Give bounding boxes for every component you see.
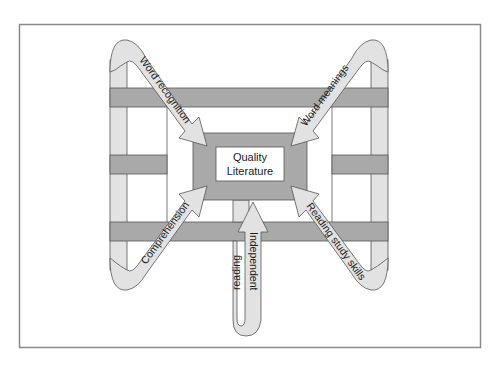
- middle-bar-right: [332, 155, 388, 174]
- label-independent: Independent: [248, 232, 260, 290]
- center-label-line1: Quality: [233, 151, 268, 163]
- middle-bar-left: [110, 155, 167, 174]
- literature-diagram: Quality Literature Word recognition Word…: [0, 0, 497, 366]
- label-reading: reading: [230, 255, 242, 290]
- center-label-line2: Literature: [227, 165, 273, 177]
- top-bar: [110, 88, 388, 107]
